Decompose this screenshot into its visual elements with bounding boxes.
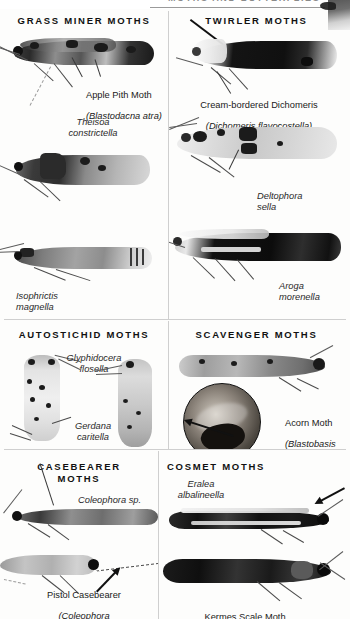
section-grass-miner: GRASS MINER MOTHS Apple Pith Moth (Blast… [0, 9, 168, 319]
section-autostichid: AUTOSTICHID MOTHS Glyphidocera flosella [0, 321, 168, 449]
section-casebearer: CASEBEARER MOTHS Coleophora sp. [0, 451, 158, 619]
specimen-isophrictis-magnella [4, 239, 156, 285]
common-name-acorn-moth: Acorn Moth [285, 418, 333, 428]
top-divider-rule [150, 7, 325, 8]
caption-isophrictis-magnella: Isophrictis magnella [16, 291, 96, 312]
caption-deltophora-sella: Deltophora sella [257, 191, 329, 212]
specimen-theisoa-constrictella [6, 149, 154, 199]
field-guide-page: MOTHS AND BUTTERFLIES GRASS MINER MOTHS [0, 0, 350, 619]
page-top-cut-strip: MOTHS AND BUTTERFLIES [0, 0, 350, 9]
caption-theisoa-constrictella: Theisoa constrictella [52, 117, 134, 138]
section-scavenger: SCAVENGER MOTHS Acorn Moth [169, 321, 350, 449]
caption-apple-pith-moth: Apple Pith Moth (Blastodacna atra) [86, 79, 168, 121]
caption-acorn-moth: Acorn Moth (Blastobasis glandulella) [285, 407, 349, 449]
cut-off-header-text: MOTHS AND BUTTERFLIES [168, 0, 320, 3]
divider-horizontal-1 [4, 319, 346, 320]
specimen-eralea-albalineella [165, 503, 341, 545]
section-title-grass-miner: GRASS MINER MOTHS [0, 15, 168, 27]
scientific-name-acorn-moth: (Blastobasis glandulella) [285, 439, 336, 449]
sections-grid: GRASS MINER MOTHS Apple Pith Moth (Blast… [0, 9, 350, 619]
section-title-scavenger: SCAVENGER MOTHS [169, 329, 344, 341]
specimen-cream-bordered-dichomeris [189, 35, 339, 83]
section-title-cosmet: COSMET MOTHS [159, 461, 347, 473]
caption-eralea-albalineella: Eralea albalineella [163, 479, 239, 500]
section-title-casebearer: CASEBEARER MOTHS [0, 461, 158, 485]
scientific-name-pistol-casebearer: (Coleophora tiliaefoliella) [58, 611, 109, 619]
specimen-kermes-scale-moth [159, 551, 345, 599]
specimen-apple-pith-moth [8, 33, 158, 79]
common-name-dichomeris: Cream-bordered Dichomeris [200, 100, 317, 110]
caption-aroga-morenella: Aroga morenella [279, 281, 343, 302]
specimen-coleophora-sp [4, 503, 158, 537]
section-title-autostichid: AUTOSTICHID MOTHS [0, 329, 168, 341]
section-title-twirler: TWIRLER MOTHS [169, 15, 344, 27]
common-name-pistol-casebearer: Pistol Casebearer [47, 590, 121, 600]
section-cosmet: COSMET MOTHS Eralea albalineella [159, 451, 350, 619]
acorn-with-larva-inset [183, 383, 261, 449]
caption-gerdana-caritella: Gerdana caritella [62, 421, 124, 442]
common-name-kermes-scale-moth: Kermes Scale Moth [204, 612, 285, 619]
specimen-acorn-moth [175, 347, 335, 389]
divider-horizontal-2 [4, 449, 346, 450]
section-twirler: TWIRLER MOTHS Cream-bordered Dichomeris … [169, 9, 350, 319]
caption-pistol-casebearer: Pistol Casebearer (Coleophora tiliaefoli… [20, 579, 148, 619]
common-name-apple-pith: Apple Pith Moth [86, 90, 152, 100]
caption-kermes-scale-moth: Kermes Scale Moth (Euclemensia bassettel… [159, 601, 335, 619]
specimen-aroga-morenella [171, 225, 347, 279]
specimen-deltophora-sella [173, 115, 345, 177]
